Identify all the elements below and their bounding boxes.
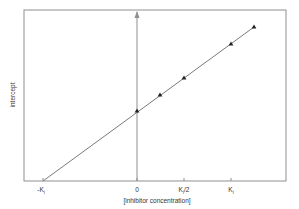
x-tick-label-zero: 0 (135, 186, 139, 193)
marker-triangle-icon (182, 76, 187, 80)
plot-frame (24, 10, 286, 181)
x-tick-label-ki-half: Ki/2 (179, 186, 190, 195)
x-axis-label: [inhibitor concentration] (123, 197, 190, 205)
y-axis-label: intercept (9, 82, 17, 107)
marker-triangle-icon (252, 25, 257, 29)
arrow-up-icon (135, 11, 140, 18)
data-markers (135, 25, 257, 113)
marker-triangle-icon (135, 109, 140, 113)
chart: -Ki 0 Ki/2 Ki [inhibitor concentration] … (0, 0, 299, 209)
x-tick-label-ki: Ki (228, 186, 233, 195)
x-tick-label-neg-ki: -Ki (37, 186, 45, 195)
fit-line (43, 27, 254, 181)
